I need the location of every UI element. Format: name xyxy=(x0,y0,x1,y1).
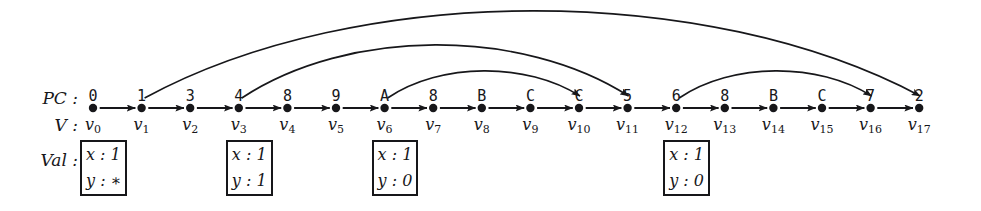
graph-node-dot xyxy=(526,104,534,112)
vertex-label: v7 xyxy=(413,115,453,136)
graph-node-dot xyxy=(478,104,486,112)
val-entry: y : ∗ xyxy=(86,168,121,194)
vertex-label: v16 xyxy=(851,115,891,136)
vertex-label: v4 xyxy=(267,115,307,136)
vertex-label: v13 xyxy=(705,115,745,136)
pc-value: 8 xyxy=(272,87,302,105)
graph-node-dot xyxy=(137,104,145,112)
trace-graph-figure: PC : V : Val : 013489A8BCC568BC72 v0v1v2… xyxy=(0,0,981,211)
graph-node-dot xyxy=(575,104,583,112)
graph-node-dot xyxy=(623,104,631,112)
vertex-label: v6 xyxy=(365,115,405,136)
graph-node-dot xyxy=(866,104,874,112)
vertex-label: v3 xyxy=(219,115,259,136)
val-box: x : 1y : 0 xyxy=(663,140,710,196)
graph-node-dot xyxy=(672,104,680,112)
val-box: x : 1y : ∗ xyxy=(80,140,127,196)
pc-value: 5 xyxy=(613,87,643,105)
vertex-label: v12 xyxy=(656,115,696,136)
pc-value: B xyxy=(467,87,497,105)
graph-edges xyxy=(0,0,981,211)
pc-value: 4 xyxy=(224,87,254,105)
pc-value: 7 xyxy=(856,87,886,105)
val-entry: y : 1 xyxy=(232,168,267,194)
pc-value: 2 xyxy=(904,87,934,105)
graph-node-dot xyxy=(429,104,437,112)
vertex-label: v2 xyxy=(170,115,210,136)
vertex-label: v15 xyxy=(802,115,842,136)
pc-value: C xyxy=(515,87,545,105)
graph-node-dot xyxy=(283,104,291,112)
graph-node-dot xyxy=(915,104,923,112)
graph-node-dot xyxy=(332,104,340,112)
pc-value: 3 xyxy=(175,87,205,105)
arc-edge-layer xyxy=(145,11,921,98)
vertex-label: v1 xyxy=(122,115,162,136)
pc-value: C xyxy=(807,87,837,105)
pc-value: 9 xyxy=(321,87,351,105)
vertex-label: v17 xyxy=(899,115,939,136)
val-entry: x : 1 xyxy=(378,142,413,168)
pc-value: C xyxy=(564,87,594,105)
pc-value: 0 xyxy=(78,87,108,105)
vertex-label: v14 xyxy=(753,115,793,136)
val-entry: y : 0 xyxy=(378,168,413,194)
val-entry: x : 1 xyxy=(86,142,121,168)
graph-node-dot xyxy=(769,104,777,112)
back-edge-arc xyxy=(145,11,921,98)
vertex-label: v10 xyxy=(559,115,599,136)
val-entry: x : 1 xyxy=(232,142,267,168)
graph-node-dot xyxy=(235,104,243,112)
val-entry: y : 0 xyxy=(669,168,704,194)
pc-value: 1 xyxy=(127,87,157,105)
vertex-label: v5 xyxy=(316,115,356,136)
pc-value: 8 xyxy=(418,87,448,105)
graph-node-dot xyxy=(186,104,194,112)
val-box: x : 1y : 0 xyxy=(372,140,419,196)
vertex-label: v11 xyxy=(608,115,648,136)
pc-value: B xyxy=(758,87,788,105)
graph-node-dot xyxy=(818,104,826,112)
val-entry: x : 1 xyxy=(669,142,704,168)
pc-value: A xyxy=(370,87,400,105)
vertex-label: v9 xyxy=(510,115,550,136)
graph-node-dot xyxy=(89,104,97,112)
graph-node-dot xyxy=(721,104,729,112)
pc-value: 6 xyxy=(661,87,691,105)
vertex-label: v0 xyxy=(73,115,113,136)
pc-value: 8 xyxy=(710,87,740,105)
vertex-label: v8 xyxy=(462,115,502,136)
graph-node-dot xyxy=(380,104,388,112)
val-box: x : 1y : 1 xyxy=(226,140,273,196)
